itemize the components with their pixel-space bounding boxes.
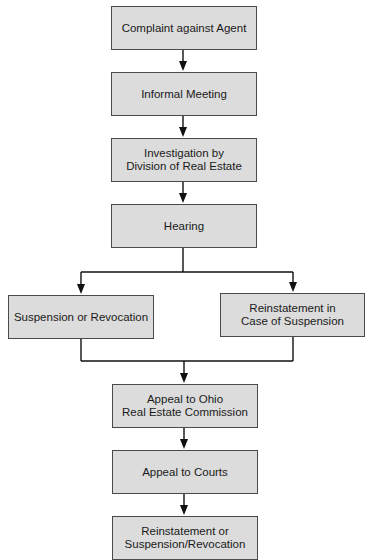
node-investigation: Investigation by Division of Real Estate xyxy=(111,138,257,182)
node-final-outcome: Reinstatement or Suspension/Revocation xyxy=(112,516,258,560)
node-appeal-to-ohio-commission: Appeal to Ohio Real Estate Commission xyxy=(112,384,258,428)
node-complaint-against-agent: Complaint against Agent xyxy=(111,6,257,50)
node-reinstatement-in-case-of-suspension: Reinstatement in Case of Suspension xyxy=(220,293,365,337)
node-hearing: Hearing xyxy=(111,204,257,248)
node-suspension-or-revocation: Suspension or Revocation xyxy=(8,295,154,339)
node-informal-meeting: Informal Meeting xyxy=(111,72,257,116)
node-appeal-to-courts: Appeal to Courts xyxy=(112,450,258,494)
